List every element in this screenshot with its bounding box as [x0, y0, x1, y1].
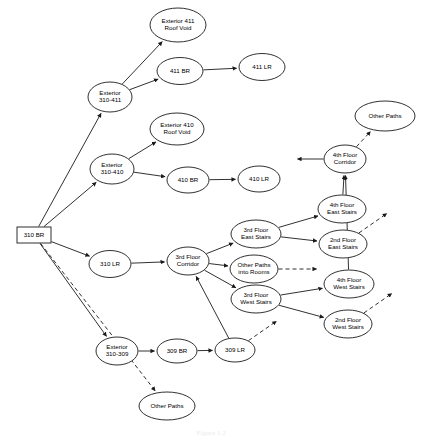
node-label-310-br: 310 BR [24, 231, 45, 238]
node-label-410-br: 410 BR [178, 176, 199, 183]
stub-2nd-east-stairs [359, 214, 387, 233]
node-label-411-br: 411 BR [170, 67, 191, 74]
edge-3rd-floor-corridor-to-other-paths-into-rooms [209, 264, 228, 266]
node-ext-411-roof-void[interactable]: Exterior 411Roof Void [150, 8, 206, 42]
node-310-br[interactable]: 310 BR [17, 227, 51, 243]
edge-4th-floor-corridor-to-other-paths-top [356, 132, 370, 147]
edge-ext-310-411-to-ext-411-roof-void [122, 42, 162, 84]
node-label-3rd-floor-east-stairs: 3rd Floor [244, 226, 269, 233]
node-410-lr[interactable]: 410 LR [238, 166, 280, 192]
node-label-4th-floor-corridor: 4th Floor [333, 151, 357, 158]
node-label-ext-411-roof-void: Exterior 411 [162, 17, 195, 24]
node-label-ext-310-309: Exterior [106, 343, 127, 350]
path-graph: 310 BRExterior 411Roof Void411 BR411 LRE… [0, 0, 423, 440]
edge-310-br-to-310-lr [52, 242, 90, 257]
figure-caption: Figure 1.2 [0, 430, 423, 436]
node-label-4th-floor-east-stairs: East Stairs [327, 208, 357, 215]
node-label-4th-floor-corridor: Corridor [334, 158, 356, 165]
node-411-lr[interactable]: 411 LR [239, 54, 285, 81]
node-309-lr[interactable]: 309 LR [215, 338, 255, 362]
node-label-2nd-floor-east-stairs: East Stairs [328, 243, 358, 250]
node-310-lr[interactable]: 310 LR [89, 251, 131, 278]
edge-411-br-to-411-lr [203, 68, 236, 70]
node-label-309-lr: 309 LR [225, 346, 245, 353]
node-label-4th-floor-east-stairs: 4th Floor [330, 201, 354, 208]
node-other-paths-into-rooms[interactable]: Other Pathsinto Rooms [230, 255, 278, 283]
node-label-other-paths-bottom: Other Paths [150, 402, 183, 409]
node-3rd-floor-east-stairs[interactable]: 3rd FloorEast Stairs [231, 220, 281, 248]
node-label-ext-410-roof-void: Exterior 410 [160, 121, 194, 128]
node-2nd-floor-west-stairs[interactable]: 2nd FloorWest Stairs [324, 310, 372, 338]
node-other-paths-top[interactable]: Other Paths [355, 101, 415, 131]
stub-309-lr [249, 321, 277, 340]
node-ext-310-411[interactable]: Exterior310-411 [88, 82, 132, 112]
edge-3rd-floor-east-stairs-to-4th-floor-east-stairs [279, 216, 318, 227]
node-label-310-lr: 310 LR [100, 260, 120, 267]
node-label-other-paths-into-rooms: Other Paths [237, 261, 270, 268]
node-ext-410-roof-void[interactable]: Exterior 410Roof Void [150, 113, 204, 145]
node-ext-310-309[interactable]: Exterior310-309 [96, 337, 138, 365]
node-label-ext-310-309: 310-309 [106, 350, 129, 357]
node-label-other-paths-top: Other Paths [368, 112, 401, 119]
node-label-3rd-floor-corridor: 3rd Floor [176, 253, 201, 260]
node-2nd-floor-east-stairs[interactable]: 2nd FloorEast Stairs [319, 230, 367, 258]
node-label-ext-310-410: Exterior [101, 161, 122, 168]
diagram-canvas: 310 BRExterior 411Roof Void411 BR411 LRE… [0, 0, 423, 440]
node-3rd-floor-corridor[interactable]: 3rd FloorCorridor [167, 247, 209, 275]
node-label-ext-310-411: Exterior [99, 89, 120, 96]
node-label-ext-411-roof-void: Roof Void [165, 24, 192, 31]
node-label-other-paths-into-rooms: into Rooms [238, 268, 269, 275]
edge-ext-310-410-to-ext-410-roof-void [129, 142, 156, 159]
node-label-3rd-floor-corridor: Corridor [177, 260, 199, 267]
node-label-309-br: 309 BR [167, 347, 188, 354]
node-label-2nd-floor-west-stairs: West Stairs [332, 323, 364, 330]
node-309-br[interactable]: 309 BR [157, 339, 197, 363]
node-label-ext-410-roof-void: Roof Void [164, 128, 191, 135]
node-label-3rd-floor-west-stairs: 3rd Floor [244, 291, 269, 298]
edge-ext-310-411-to-411-br [130, 79, 158, 89]
stub-2nd-west-stairs [364, 294, 392, 313]
node-label-ext-310-410: 310-410 [101, 168, 124, 175]
node-label-410-lr: 410 LR [249, 175, 269, 182]
node-4th-floor-corridor[interactable]: 4th FloorCorridor [324, 145, 366, 173]
node-4th-floor-west-stairs[interactable]: 4th FloorWest Stairs [324, 270, 374, 298]
edge-ext-310-410-to-410-br [134, 172, 165, 176]
edge-309-lr-to-3rd-floor-corridor [196, 276, 229, 338]
node-label-2nd-floor-east-stairs: 2nd Floor [330, 236, 356, 243]
node-411-br[interactable]: 411 BR [157, 58, 203, 85]
node-other-paths-bottom[interactable]: Other Paths [139, 392, 195, 420]
node-4th-floor-east-stairs[interactable]: 4th FloorEast Stairs [318, 195, 366, 223]
node-label-411-lr: 411 LR [252, 63, 272, 70]
node-410-br[interactable]: 410 BR [167, 167, 209, 193]
node-label-4th-floor-west-stairs: 4th Floor [337, 276, 361, 283]
node-ext-310-410[interactable]: Exterior310-410 [90, 154, 134, 184]
node-label-2nd-floor-west-stairs: 2nd Floor [335, 316, 361, 323]
edge-4th-floor-east-stairs-to-4th-floor-corridor [343, 175, 344, 194]
edge-310-br-to-ext-310-410 [44, 182, 96, 226]
edge-3rd-floor-west-stairs-to-2nd-floor-west-stairs [279, 305, 324, 317]
edge-3rd-floor-corridor-to-3rd-floor-east-stairs [207, 243, 234, 254]
edge-3rd-floor-west-stairs-to-4th-floor-west-stairs [281, 288, 323, 295]
node-label-3rd-floor-west-stairs: West Stairs [240, 298, 272, 305]
node-label-ext-310-411: 310-411 [99, 96, 122, 103]
node-3rd-floor-west-stairs[interactable]: 3rd FloorWest Stairs [231, 285, 281, 313]
node-layer: 310 BRExterior 411Roof Void411 BR411 LRE… [17, 8, 415, 420]
edge-310-lr-to-3rd-floor-corridor [131, 262, 164, 263]
node-label-4th-floor-west-stairs: West Stairs [333, 283, 365, 290]
edge-3rd-floor-east-stairs-to-2nd-floor-east-stairs [281, 237, 317, 241]
node-label-3rd-floor-east-stairs: East Stairs [241, 233, 271, 240]
